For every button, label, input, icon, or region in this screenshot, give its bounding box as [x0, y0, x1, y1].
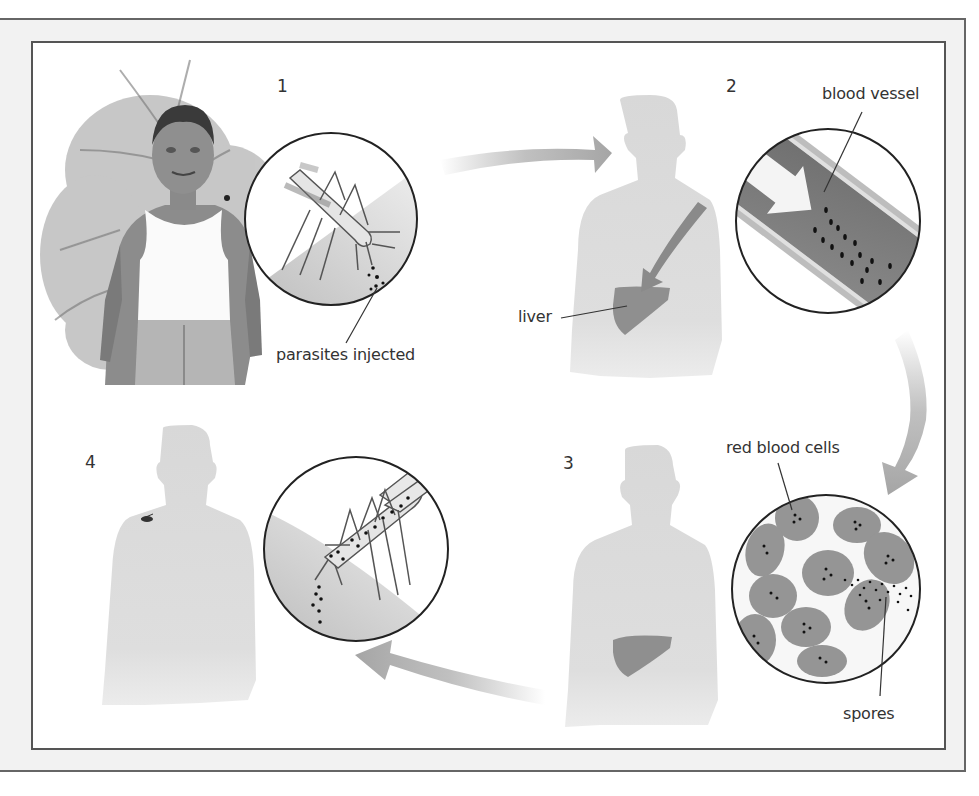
label-blood-vessel: blood vessel: [822, 84, 919, 103]
cycle-arrow-icon: [882, 330, 927, 495]
label-spores: spores: [843, 704, 895, 723]
step-number-2: 2: [726, 76, 737, 96]
step-number-4: 4: [85, 452, 96, 472]
step1-zoom-circle: [240, 130, 430, 343]
person-silhouette-icon: [102, 425, 256, 705]
step2-zoom-circle: [695, 103, 964, 341]
label-red-blood-cells: red blood cells: [726, 438, 840, 457]
diagram-canvas: 1 parasites injected 2 blood vessel live…: [0, 0, 979, 796]
step1-man-illustration: [40, 60, 280, 385]
cycle-arrow-icon: [355, 640, 545, 705]
step-number-3: 3: [563, 453, 574, 473]
person-silhouette-icon: [565, 445, 718, 727]
step3-zoom-circle: [730, 463, 930, 696]
label-liver: liver: [518, 307, 552, 326]
step4-zoom-circle: [260, 455, 460, 645]
label-parasites-injected: parasites injected: [276, 345, 415, 364]
step-number-1: 1: [277, 76, 288, 96]
cycle-arrow-icon: [440, 136, 612, 175]
diagram-illustration: [0, 0, 979, 796]
person-silhouette-icon: [570, 95, 722, 378]
